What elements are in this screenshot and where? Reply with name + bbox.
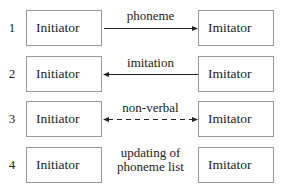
arrows-layer	[0, 0, 283, 191]
